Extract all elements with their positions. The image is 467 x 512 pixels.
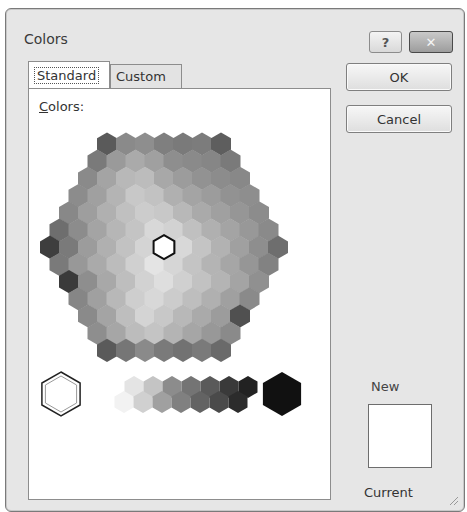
current-color-label: Current [364,485,413,500]
close-button[interactable]: ✕ [409,31,453,53]
tab-standard[interactable]: Standard [28,61,110,88]
new-color-label: New [371,379,399,394]
white-cell[interactable] [42,372,80,416]
standard-tab-panel: Colors: [28,88,331,500]
resize-grip-icon[interactable] [448,495,458,505]
cancel-button[interactable]: Cancel [346,105,452,133]
colors-dialog: Colors ? ✕ Standard Custom Colors: OK Ca… [5,8,465,512]
color-preview-swatch [368,404,432,468]
tab-custom[interactable]: Custom [110,64,182,88]
dialog-title: Colors [24,31,68,47]
help-icon: ? [382,35,390,50]
black-cell[interactable] [263,372,301,416]
ok-button[interactable]: OK [346,63,452,91]
close-icon: ✕ [426,35,437,50]
color-honeycomb[interactable] [29,89,332,501]
help-button[interactable]: ? [369,31,402,53]
title-bar[interactable]: Colors ? ✕ [6,9,464,49]
